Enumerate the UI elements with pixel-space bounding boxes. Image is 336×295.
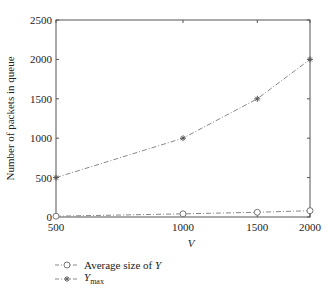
data-point-ymax (307, 56, 313, 62)
data-point-ymax (53, 175, 59, 181)
star-marker-icon (54, 273, 80, 285)
series-line-1 (56, 59, 310, 177)
y-tick-label: 1500 (30, 93, 53, 105)
x-axis-label: V (188, 237, 196, 249)
legend-label-ymax: Ymax (84, 271, 104, 286)
legend-label-average: Average size of Y (84, 259, 161, 271)
y-tick-label: 500 (36, 172, 53, 184)
y-tick-label: 2500 (30, 14, 53, 26)
data-point-average (53, 213, 59, 219)
y-tick-label: 1000 (30, 132, 53, 144)
data-point-average (307, 208, 313, 214)
x-tick-label: 1000 (172, 221, 195, 233)
circle-marker-icon (54, 259, 80, 271)
legend-item-ymax: Ymax (54, 272, 161, 286)
x-tick-label: 2000 (299, 221, 322, 233)
legend: Average size of Y Ymax (54, 258, 161, 286)
legend-item-average: Average size of Y (54, 258, 161, 272)
series-layer (53, 56, 313, 219)
ticks: 05001000150020002500500100015002000 (30, 14, 322, 233)
x-tick-label: 500 (48, 221, 65, 233)
data-point-ymax (180, 135, 186, 141)
y-axis-label: Number of packets in queue (4, 56, 16, 180)
plot-frame (56, 20, 310, 217)
data-point-average (180, 211, 186, 217)
x-tick-label: 1500 (246, 221, 269, 233)
data-point-average (254, 209, 260, 215)
chart: 05001000150020002500500100015002000 Numb… (0, 0, 336, 295)
y-tick-label: 2000 (30, 53, 53, 65)
